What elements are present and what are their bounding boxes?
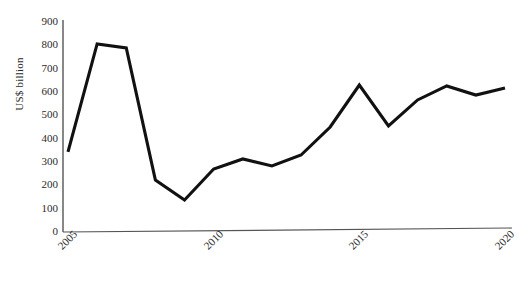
x-axis-tick-labels: 2005201020152020 [0, 0, 532, 286]
x-tick-label: 2020 [493, 228, 516, 251]
x-tick-label: 2005 [56, 228, 79, 251]
x-tick-label: 2015 [347, 228, 370, 251]
x-tick-label: 2010 [202, 228, 225, 251]
line-chart: US$ billion 0100200300400500600700800900… [0, 0, 532, 286]
